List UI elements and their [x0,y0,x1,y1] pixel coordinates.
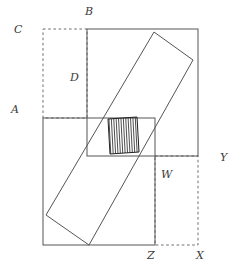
dashed-rectangle-C [43,29,87,118]
label-Z: Z [147,250,155,261]
label-Y: Y [220,152,227,163]
label-C: C [14,24,22,35]
label-X: X [196,250,204,261]
label-B: B [85,6,93,17]
label-D: D [70,72,79,83]
geometry-figure: C B D A Y W Z X [0,0,237,278]
tall-rectangle-BD [87,29,198,156]
label-A: A [11,104,19,115]
diagram-canvas [0,0,237,278]
label-W: W [161,169,172,180]
